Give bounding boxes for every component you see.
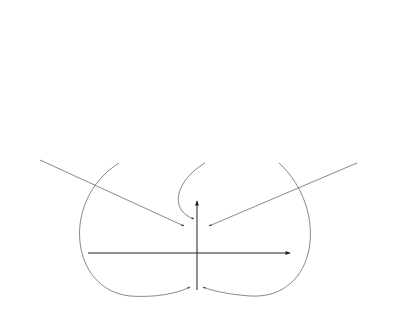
connector-panel3 [178,163,205,219]
connector-panel5 [209,163,357,226]
connector-panel4 [203,163,310,296]
autocorrelation-plot [0,0,290,290]
connector-panel1 [40,160,184,226]
autocorrelation-diagram [0,0,413,313]
connector-lines [40,160,357,296]
connector-panel2 [80,163,190,296]
